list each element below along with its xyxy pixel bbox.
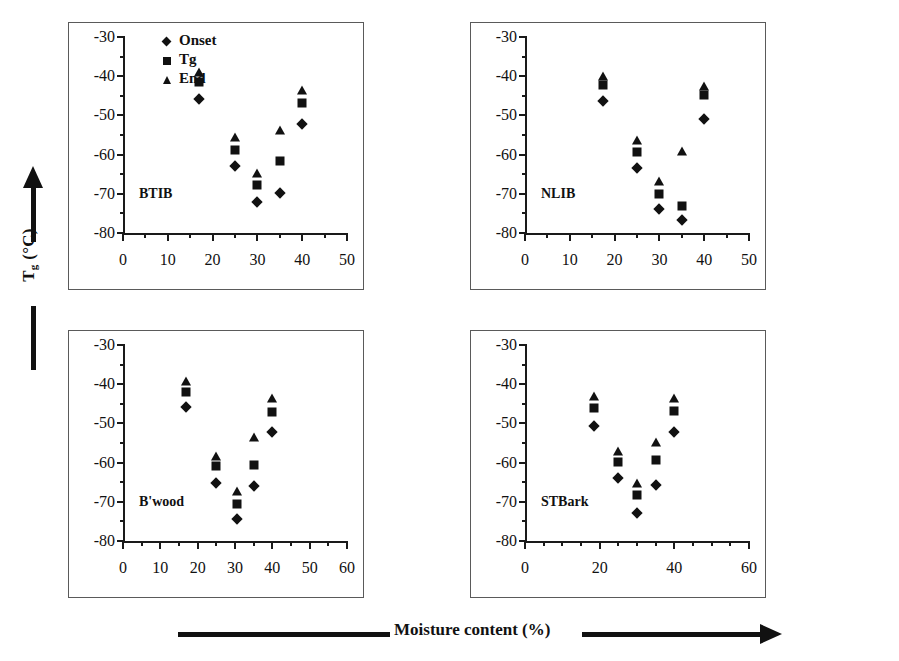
y-axis-major-tick bbox=[519, 36, 527, 38]
y-axis-minor-tick bbox=[120, 403, 125, 405]
y-axis-tick-label: -30 bbox=[467, 336, 517, 354]
y-axis-tick-label: -30 bbox=[65, 336, 115, 354]
y-axis-tick-label: -30 bbox=[467, 28, 517, 46]
square-marker bbox=[163, 57, 171, 65]
data-point-onset bbox=[211, 477, 222, 488]
data-point-onset bbox=[676, 214, 687, 225]
x-axis-major-tick bbox=[122, 233, 124, 241]
data-point-tg bbox=[677, 201, 686, 210]
data-point-onset bbox=[669, 426, 680, 437]
y-axis-minor-tick bbox=[120, 173, 125, 175]
data-point-tg bbox=[212, 462, 221, 471]
data-point-onset bbox=[181, 401, 192, 412]
x-axis-minor-tick bbox=[580, 541, 582, 546]
y-axis-tick-label: -40 bbox=[65, 67, 115, 85]
x-axis-minor-tick bbox=[178, 541, 180, 546]
x-axis-minor-tick bbox=[234, 233, 236, 238]
x-axis-tick-label: 40 bbox=[696, 251, 712, 269]
data-point-tg bbox=[655, 189, 664, 198]
y-axis-tick-label: -30 bbox=[65, 28, 115, 46]
y-axis-major-tick bbox=[519, 114, 527, 116]
data-point-tg bbox=[249, 460, 258, 469]
legend-label: Onset bbox=[179, 32, 217, 49]
y-axis-minor-tick bbox=[120, 364, 125, 366]
x-axis-tick-label: 20 bbox=[190, 559, 206, 577]
y-axis-arrow-head-icon bbox=[23, 166, 43, 188]
y-axis-minor-tick bbox=[522, 520, 527, 522]
x-axis-minor-tick bbox=[327, 541, 329, 546]
x-axis-tick-label: 10 bbox=[562, 251, 578, 269]
x-axis-label-text: Moisture content (%) bbox=[394, 620, 550, 640]
data-point-end bbox=[613, 446, 623, 455]
y-axis-tick-label: -60 bbox=[65, 454, 115, 472]
data-point-tg bbox=[633, 147, 642, 156]
y-axis-tick-label: -50 bbox=[65, 106, 115, 124]
data-point-onset bbox=[654, 203, 665, 214]
y-axis-tick-label: -80 bbox=[65, 224, 115, 242]
data-point-end bbox=[699, 82, 709, 91]
x-axis-minor-tick bbox=[692, 541, 694, 546]
data-point-onset bbox=[650, 480, 661, 491]
x-axis-minor-tick bbox=[561, 541, 563, 546]
data-point-tg bbox=[253, 181, 262, 190]
x-axis-major-tick bbox=[673, 541, 675, 549]
x-axis-minor-tick bbox=[655, 541, 657, 546]
x-axis-tick-label: 60 bbox=[741, 559, 757, 577]
y-axis-minor-tick bbox=[120, 212, 125, 214]
y-axis-major-tick bbox=[117, 462, 125, 464]
data-point-onset bbox=[248, 480, 259, 491]
y-axis-minor-tick bbox=[522, 364, 527, 366]
x-axis-tick-label: 50 bbox=[741, 251, 757, 269]
plot-panel-b-wood: -80-70-60-50-40-300102030405060B'wood bbox=[68, 330, 364, 598]
data-point-end bbox=[632, 136, 642, 145]
y-axis-label-unit: (°C) bbox=[19, 228, 38, 264]
x-axis-minor-tick bbox=[591, 233, 593, 238]
y-axis-tick-label: -50 bbox=[65, 414, 115, 432]
y-axis-major-tick bbox=[519, 462, 527, 464]
data-point-end bbox=[230, 133, 240, 142]
y-axis-tick-label: -50 bbox=[467, 414, 517, 432]
panel-title-btib: BTIB bbox=[139, 186, 172, 202]
data-point-onset bbox=[598, 95, 609, 106]
x-axis-minor-tick bbox=[144, 233, 146, 238]
x-axis-major-tick bbox=[309, 541, 311, 549]
x-axis-major-tick bbox=[346, 233, 348, 241]
data-point-onset bbox=[631, 507, 642, 518]
data-point-end bbox=[267, 394, 277, 403]
data-point-tg bbox=[700, 91, 709, 100]
x-axis-minor-tick bbox=[681, 233, 683, 238]
y-axis-minor-tick bbox=[120, 134, 125, 136]
data-point-onset bbox=[588, 420, 599, 431]
x-axis-tick-label: 0 bbox=[119, 251, 127, 269]
y-axis-tick-label: -80 bbox=[467, 532, 517, 550]
y-axis-tick-label: -60 bbox=[467, 454, 517, 472]
data-point-onset bbox=[231, 514, 242, 525]
data-point-tg bbox=[670, 406, 679, 415]
data-point-onset bbox=[699, 114, 710, 125]
y-axis-major-tick bbox=[519, 193, 527, 195]
x-axis-minor-tick bbox=[543, 541, 545, 546]
data-point-end bbox=[598, 71, 608, 80]
x-axis-minor-tick bbox=[253, 541, 255, 546]
x-axis-tick-label: 20 bbox=[607, 251, 623, 269]
x-axis-tick-label: 10 bbox=[152, 559, 168, 577]
x-axis-major-tick bbox=[212, 233, 214, 241]
y-axis-minor-tick bbox=[522, 212, 527, 214]
data-point-end bbox=[677, 146, 687, 155]
y-axis-minor-tick bbox=[120, 442, 125, 444]
y-axis-minor-tick bbox=[522, 95, 527, 97]
y-axis-major-tick bbox=[117, 501, 125, 503]
y-axis-major-tick bbox=[519, 344, 527, 346]
y-axis-minor-tick bbox=[522, 442, 527, 444]
data-point-end bbox=[252, 169, 262, 178]
x-axis-major-tick bbox=[703, 233, 705, 241]
y-axis-major-tick bbox=[117, 193, 125, 195]
data-point-tg bbox=[182, 387, 191, 396]
x-axis-major-tick bbox=[197, 541, 199, 549]
data-point-tg bbox=[599, 81, 608, 90]
y-axis-label-sub: g bbox=[27, 264, 39, 270]
x-axis-minor-tick bbox=[546, 233, 548, 238]
x-axis-tick-label: 40 bbox=[264, 559, 280, 577]
y-axis-major-tick bbox=[519, 383, 527, 385]
data-point-end bbox=[297, 85, 307, 94]
